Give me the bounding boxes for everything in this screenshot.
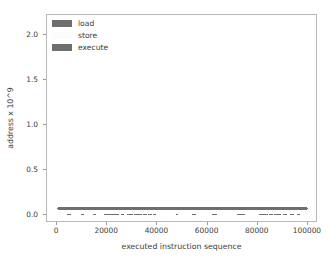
data-point-store [252, 25, 254, 27]
data-point-load [117, 214, 119, 216]
data-point-load [243, 214, 245, 216]
data-point-load [286, 214, 288, 216]
y-tick-label: 0.5 [26, 164, 38, 173]
x-tick-mark [56, 222, 57, 225]
data-point-store [238, 25, 240, 27]
data-point-store [230, 25, 232, 27]
data-point-store [121, 25, 123, 27]
legend-item-store[interactable]: store [52, 31, 108, 40]
data-point-load [293, 214, 295, 216]
data-point-load [94, 214, 96, 216]
data-point-store [206, 25, 208, 27]
data-point-store [144, 25, 146, 27]
data-point-store [222, 25, 224, 27]
data-point-store [164, 25, 166, 27]
data-point-load [266, 214, 268, 216]
data-point-store [247, 25, 249, 27]
data-point-store [198, 25, 200, 27]
legend-swatch-icon [52, 20, 72, 27]
y-axis-label: address x 10^9 [6, 87, 15, 149]
chart-figure: address x 10^9 executed instruction sequ… [0, 0, 336, 267]
data-point-load [70, 214, 72, 216]
data-point-store [257, 25, 259, 27]
x-tick-mark [156, 222, 157, 225]
chart-legend: loadstoreexecute [52, 19, 108, 52]
x-tick-label: 100000 [293, 226, 321, 235]
data-point-store [242, 25, 244, 27]
x-tick-mark [207, 222, 208, 225]
legend-item-load[interactable]: load [52, 19, 108, 28]
x-axis-label: executed instruction sequence [46, 242, 317, 251]
data-point-load [298, 214, 300, 216]
data-point-load [154, 214, 156, 216]
data-point-store [210, 25, 212, 27]
data-point-store [234, 25, 236, 27]
x-tick-mark [257, 222, 258, 225]
x-tick-label: 60000 [195, 226, 219, 235]
data-point-load [82, 214, 84, 216]
data-point-store [129, 25, 131, 27]
x-tick-label: 20000 [94, 226, 118, 235]
legend-item-execute[interactable]: execute [52, 43, 108, 52]
data-point-store [218, 25, 220, 27]
data-point-store [140, 25, 142, 27]
data-point-load [145, 214, 147, 216]
x-tick-mark [106, 222, 107, 225]
data-point-execute [306, 208, 308, 210]
x-tick-label: 80000 [245, 226, 269, 235]
data-point-load [140, 214, 142, 216]
data-point-store [214, 25, 216, 27]
data-point-load [131, 214, 133, 216]
data-point-store [117, 25, 119, 27]
data-point-load [215, 214, 217, 216]
legend-label: load [78, 19, 94, 28]
y-tick-label: 2.0 [26, 29, 38, 38]
y-tick-label: 0.0 [26, 209, 38, 218]
data-point-store [148, 25, 150, 27]
legend-swatch-icon [52, 32, 72, 39]
data-point-store [202, 25, 204, 27]
data-band-execute [58, 207, 306, 210]
data-point-store [114, 25, 116, 27]
data-point-store [177, 25, 179, 27]
legend-label: execute [78, 43, 108, 52]
data-point-load [176, 214, 178, 216]
data-point-load [194, 214, 196, 216]
data-point-store [194, 25, 196, 27]
data-point-load [271, 214, 273, 216]
data-point-store [152, 25, 154, 27]
x-tick-mark [307, 222, 308, 225]
y-tick-label: 1.0 [26, 119, 38, 128]
x-tick-label: 0 [54, 226, 59, 235]
data-point-store [160, 25, 162, 27]
legend-label: store [78, 31, 97, 40]
data-point-execute [57, 208, 59, 210]
data-point-store [133, 25, 135, 27]
data-point-store [180, 25, 182, 27]
data-point-store [226, 25, 228, 27]
data-point-store [136, 25, 138, 27]
x-tick-label: 40000 [145, 226, 169, 235]
data-point-load [150, 214, 152, 216]
data-point-load [122, 214, 124, 216]
data-point-store [124, 25, 126, 27]
data-point-store [156, 25, 158, 27]
legend-swatch-icon [52, 44, 72, 51]
data-point-load [279, 214, 281, 216]
y-tick-label: 1.5 [26, 74, 38, 83]
